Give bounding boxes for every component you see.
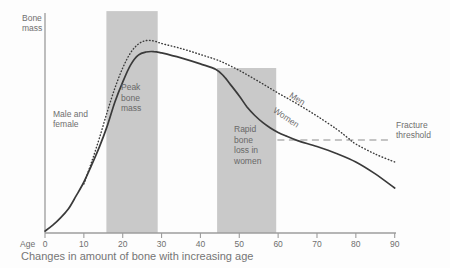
y-axis-label: Bone mass: [22, 13, 42, 33]
label-line: bone: [121, 93, 141, 104]
x-tick-label: 50: [235, 239, 245, 249]
x-tick-label: 80: [351, 239, 361, 249]
label-line: women: [234, 156, 261, 167]
x-tick-label: 30: [157, 239, 167, 249]
label-line: Male and: [53, 109, 88, 119]
bone-mass-chart: 0102030405060708090 Bone mass Male and f…: [0, 0, 450, 268]
x-axis-label: Age: [20, 239, 35, 249]
label-line: threshold: [396, 131, 431, 141]
rapid-bone-loss-label: Rapid bone loss in women: [234, 124, 261, 166]
x-tick-label: 20: [118, 239, 128, 249]
peak-bone-mass-label: Peak bone mass: [121, 82, 141, 114]
peak-bone-mass-band: [106, 11, 157, 233]
x-tick-label: 90: [390, 239, 400, 249]
label-line: Bone: [22, 13, 42, 23]
label-line: mass: [121, 103, 141, 114]
x-tick-label: 40: [196, 239, 206, 249]
male-and-female-label: Male and female: [53, 109, 88, 129]
label-line: female: [53, 119, 88, 129]
chart-canvas: 0102030405060708090: [0, 0, 450, 268]
label-line: Peak: [121, 82, 141, 93]
x-tick-label: 60: [273, 239, 283, 249]
label-line: bone: [234, 135, 261, 146]
x-tick-label: 10: [79, 239, 89, 249]
x-tick-label: 0: [43, 239, 48, 249]
fracture-threshold-label: Fracture threshold: [396, 121, 431, 140]
x-tick-label: 70: [312, 239, 322, 249]
chart-caption: Changes in amount of bone with increasin…: [21, 250, 253, 262]
label-line: loss in: [234, 145, 261, 156]
label-line: Rapid: [234, 124, 261, 135]
label-line: mass: [22, 23, 42, 33]
